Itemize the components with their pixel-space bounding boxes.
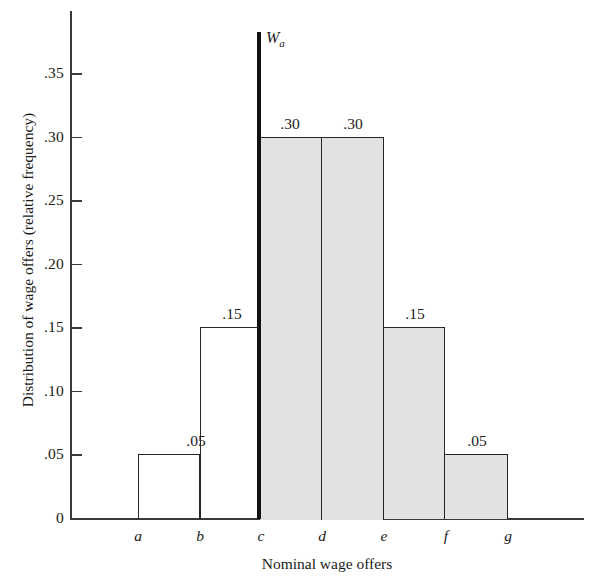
x-tick-label-b: b xyxy=(188,528,212,544)
y-tick-2 xyxy=(71,391,82,393)
y-tick-label-5: .25 xyxy=(24,192,64,208)
y-tick-label-1: .05 xyxy=(24,446,64,462)
y-tick-label-0: 0 xyxy=(24,510,64,526)
x-tick-label-d: d xyxy=(310,528,334,544)
reservation-wage-label-subscript: a xyxy=(279,37,285,49)
y-tick-label-6: .30 xyxy=(24,129,64,145)
bar-value-c-d: .30 xyxy=(265,116,315,132)
bar-value-e-f: .15 xyxy=(390,306,440,322)
bar-b-c xyxy=(200,327,260,519)
bar-value-f-g: .05 xyxy=(452,433,502,449)
y-tick-4 xyxy=(71,264,82,266)
y-tick-5 xyxy=(71,200,82,202)
bar-c-d xyxy=(259,137,322,520)
x-tick-label-e: e xyxy=(372,528,396,544)
y-tick-3 xyxy=(71,327,82,329)
x-tick-label-a: a xyxy=(126,528,150,544)
x-tick-label-g: g xyxy=(496,528,520,544)
bar-a-b xyxy=(138,454,200,519)
y-tick-label-2: .10 xyxy=(24,383,64,399)
y-tick-label-7: .35 xyxy=(24,65,64,81)
y-tick-6 xyxy=(71,137,82,139)
reservation-wage-line xyxy=(257,32,261,519)
histogram-chart: Distribution of wage offers (relative fr… xyxy=(0,0,591,586)
y-tick-label-4: .20 xyxy=(24,256,64,272)
bar-value-d-e: .30 xyxy=(328,116,378,132)
reservation-wage-label: Wa xyxy=(266,30,285,49)
y-tick-label-3: .15 xyxy=(24,319,64,335)
y-tick-1 xyxy=(71,454,82,456)
y-tick-0 xyxy=(71,518,82,520)
reservation-wage-label-text: W xyxy=(266,29,279,46)
bar-e-f xyxy=(383,327,445,519)
x-axis-title: Nominal wage offers xyxy=(70,556,584,572)
bar-value-b-c: .15 xyxy=(207,306,257,322)
bar-f-g xyxy=(444,454,508,519)
bar-d-e xyxy=(321,137,384,520)
x-tick-label-c: c xyxy=(249,528,273,544)
x-tick-label-f: f xyxy=(434,528,458,544)
y-tick-7 xyxy=(71,73,82,75)
